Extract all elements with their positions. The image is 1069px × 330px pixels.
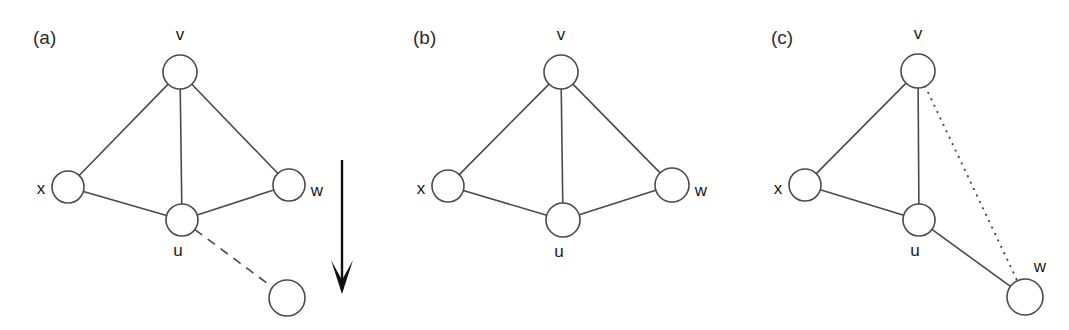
node-v [544, 55, 578, 89]
edge-v-x-solid [459, 84, 549, 175]
node-label-v: v [176, 25, 185, 44]
node-new-node [269, 280, 305, 316]
node-v [901, 54, 935, 88]
edge-u-w-solid [932, 229, 1010, 286]
edge-v-x-solid [79, 84, 168, 175]
node-label-u: u [173, 241, 182, 260]
panel-label-b: (b) [413, 27, 436, 48]
node-label-x: x [37, 179, 46, 198]
node-w [1007, 279, 1043, 315]
edge-v-u-solid [180, 89, 182, 204]
node-u [903, 204, 935, 236]
edge-x-u-solid [83, 191, 166, 215]
figure-canvas: (a)vxwu(b)vxwu(c)vxuw [0, 0, 1069, 330]
panel-b: (b)vxwu [413, 25, 708, 261]
node-label-x: x [774, 179, 783, 198]
edge-v-u-solid [561, 89, 563, 203]
edge-x-u-solid [463, 191, 546, 216]
node-label-u: u [554, 242, 563, 261]
edge-v-u-solid [918, 88, 919, 204]
node-x [789, 169, 821, 201]
node-label-x: x [417, 179, 426, 198]
node-u [546, 203, 580, 237]
node-w [273, 169, 305, 201]
panel-c: (c)vxuw [771, 24, 1047, 315]
edge-u-new-node-dashed [195, 230, 273, 288]
panel-a: (a)vxwu [33, 25, 353, 316]
panel-label-c: (c) [771, 27, 793, 48]
panel-label-a: (a) [33, 27, 56, 48]
edge-v-w-solid [192, 84, 278, 173]
node-label-w: w [694, 181, 708, 200]
edge-v-x-solid [816, 83, 906, 174]
node-label-w: w [310, 181, 324, 200]
node-v [163, 55, 197, 89]
edge-v-w-dotted [925, 86, 1017, 280]
edge-u-w-solid [579, 190, 656, 215]
graph-figure: (a)vxwu(b)vxwu(c)vxuw [0, 0, 1069, 330]
node-u [166, 204, 198, 236]
edge-v-w-solid [573, 84, 660, 173]
node-w [655, 168, 689, 202]
node-label-v: v [557, 25, 566, 44]
node-x [432, 170, 464, 202]
edge-u-w-solid [197, 190, 274, 215]
node-label-v: v [914, 24, 923, 43]
node-label-w: w [1033, 257, 1047, 276]
edge-x-u-solid [820, 190, 903, 216]
node-x [52, 171, 84, 203]
node-label-u: u [910, 241, 919, 260]
